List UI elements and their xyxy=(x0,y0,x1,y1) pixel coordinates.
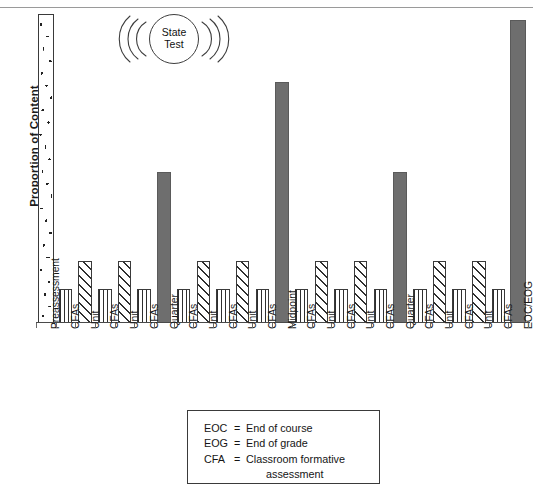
x-tick-19 xyxy=(410,323,411,328)
legend-row-cfa: CFA=Classroom formative xyxy=(204,452,379,467)
state-test-circle: State Test xyxy=(149,14,199,64)
x-tick-16 xyxy=(351,323,352,328)
x-tick-20 xyxy=(430,323,431,328)
x-tick-end xyxy=(528,323,529,328)
legend-equals-1: = xyxy=(234,436,246,451)
x-tick-3 xyxy=(95,323,96,328)
x-tick-7 xyxy=(174,323,175,328)
plot-area xyxy=(36,14,528,323)
x-tick-15 xyxy=(331,323,332,328)
x-tick-11 xyxy=(252,323,253,328)
x-tick-label-24: EOC/EOG xyxy=(523,281,533,329)
legend-definition-eoc: End of course xyxy=(246,421,379,436)
legend-abbr-eog: EOG xyxy=(204,436,234,451)
x-tick-18 xyxy=(390,323,391,328)
legend-abbr-cfa: CFA xyxy=(204,452,234,467)
x-tick-23 xyxy=(489,323,490,328)
state-test-annotation: State Test xyxy=(118,12,234,66)
x-tick-17 xyxy=(371,323,372,328)
x-tick-6 xyxy=(154,323,155,328)
legend-equals-0: = xyxy=(234,421,246,436)
bar-midpoint-12 xyxy=(275,82,289,323)
x-tick-5 xyxy=(134,323,135,328)
state-test-label-line2: Test xyxy=(164,39,183,51)
legend-content: EOC=End of courseEOG=End of gradeCFA=Cla… xyxy=(188,411,379,482)
x-tick-10 xyxy=(233,323,234,328)
x-tick-2 xyxy=(75,323,76,328)
legend-row-eoc: EOC=End of course xyxy=(204,421,379,436)
x-tick-1 xyxy=(56,323,57,328)
top-divider-rule xyxy=(0,7,533,8)
x-tick-12 xyxy=(272,323,273,328)
x-tick-13 xyxy=(292,323,293,328)
x-tick-4 xyxy=(115,323,116,328)
chart-figure: Proportion of Content PreassessmentCFAsU… xyxy=(0,0,533,496)
x-tick-label-0: Preassessment xyxy=(50,258,61,329)
x-tick-22 xyxy=(469,323,470,328)
legend-abbr-eoc: EOC xyxy=(204,421,234,436)
legend-definition-eog: End of grade xyxy=(246,436,379,451)
bar-eoc-eog-24 xyxy=(510,20,526,323)
legend-box: EOC=End of courseEOG=End of gradeCFA=Cla… xyxy=(187,410,380,484)
legend-definition-continuation: assessment xyxy=(204,467,379,482)
x-tick-14 xyxy=(312,323,313,328)
x-tick-9 xyxy=(213,323,214,328)
x-tick-0 xyxy=(36,323,37,328)
x-tick-21 xyxy=(449,323,450,328)
legend-equals-2: = xyxy=(234,452,246,467)
x-tick-8 xyxy=(193,323,194,328)
legend-row-eog: EOG=End of grade xyxy=(204,436,379,451)
legend-definition-cfa: Classroom formative xyxy=(246,452,379,467)
x-tick-24 xyxy=(508,323,509,328)
